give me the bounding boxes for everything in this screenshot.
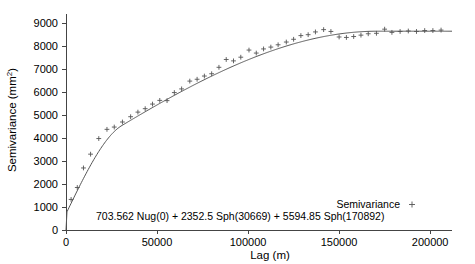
y-tick-label: 5000 [34, 109, 58, 121]
legend-item-semivariance: Semivariance [336, 198, 400, 210]
x-axis-title: Lag (m) [250, 249, 290, 261]
y-tick-label: 4000 [34, 132, 58, 144]
x-tick-label: 200000 [412, 236, 449, 248]
x-tick-label: 50000 [142, 236, 173, 248]
y-tick-label: 6000 [34, 86, 58, 98]
y-tick-label: 9000 [34, 17, 58, 29]
x-tick-label: 0 [63, 236, 69, 248]
y-tick-label: 2000 [34, 178, 58, 190]
y-tick-label: 8000 [34, 40, 58, 52]
y-tick-label: 0 [52, 224, 58, 236]
model-equation-annotation: 703.562 Nug(0) + 2352.5 Sph(30669) + 559… [96, 210, 384, 222]
y-tick-label: 7000 [34, 63, 58, 75]
x-tick-label: 150000 [321, 236, 358, 248]
y-tick-label: 1000 [34, 201, 58, 213]
y-axis-title: Semivariance (mm2) [5, 68, 18, 172]
y-tick-label: 3000 [34, 155, 58, 167]
chart-canvas: 0100020003000400050006000700080009000 05… [0, 0, 475, 264]
x-tick-label: 100000 [230, 236, 267, 248]
chart-background [0, 0, 475, 264]
semivariogram-figure: 0100020003000400050006000700080009000 05… [0, 0, 475, 264]
